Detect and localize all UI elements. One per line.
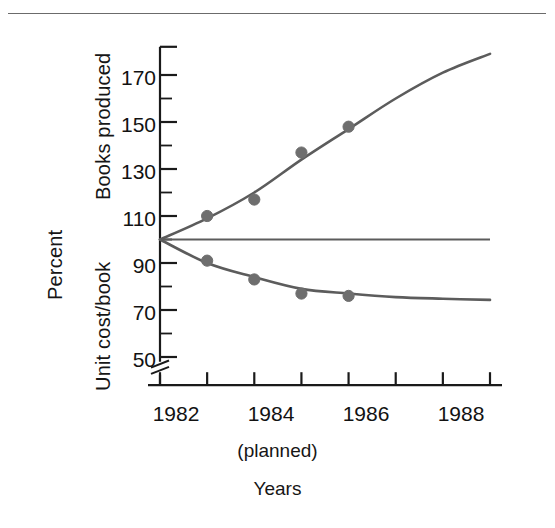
data-point-books-produced-1985	[296, 147, 307, 158]
data-point-unit-cost-book-1983	[202, 255, 213, 266]
data-point-books-produced-1983	[202, 210, 213, 221]
data-point-unit-cost-book-1985	[296, 288, 307, 299]
data-point-unit-cost-book-1986	[343, 290, 354, 301]
data-point-unit-cost-book-1984	[249, 274, 260, 285]
curve-unit-cost-book	[160, 240, 490, 300]
figure-root: Percent Books produced Unit cost/book 17…	[0, 0, 555, 528]
data-point-books-produced-1986	[343, 121, 354, 132]
data-point-books-produced-1984	[249, 194, 260, 205]
chart-plot-area	[0, 0, 555, 528]
